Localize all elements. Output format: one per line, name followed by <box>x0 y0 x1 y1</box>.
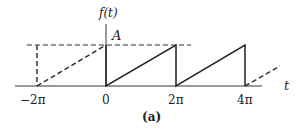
x-axis-label: t <box>284 78 290 93</box>
tick-label-2pi: 2π <box>168 93 184 107</box>
tick-label-0: 0 <box>102 93 110 107</box>
sawtooth-diagram: f(t) A t −2π 0 2π 4π (a) <box>0 0 300 133</box>
y-axis-label: f(t) <box>98 6 118 20</box>
tick-label-neg2pi: −2π <box>20 93 46 107</box>
amplitude-label: A <box>111 28 121 43</box>
dashed-ramp <box>37 45 106 86</box>
dashed-ramp-end <box>245 66 280 86</box>
tick-label-4pi: 4π <box>237 93 253 107</box>
sawtooth-wave <box>106 45 245 86</box>
figure-caption: (a) <box>142 110 161 124</box>
